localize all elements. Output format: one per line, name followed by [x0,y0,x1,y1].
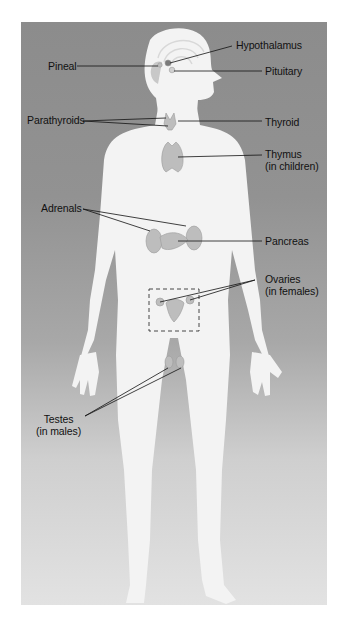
left-kidney-adrenal [146,229,162,253]
label-ovaries-line2: (in females) [265,285,319,297]
label-thymus: Thymus (in children) [265,148,319,172]
label-ovaries-line1: Ovaries [265,273,319,285]
label-pancreas: Pancreas [265,235,309,247]
label-testes-line1: Testes [36,413,81,425]
label-pineal: Pineal [48,60,77,72]
endocrine-diagram [0,0,341,634]
label-testes: Testes (in males) [36,413,81,437]
label-thyroid: Thyroid [265,116,299,128]
label-adrenals: Adrenals [41,202,82,214]
label-testes-line2: (in males) [36,425,81,437]
label-parathyroids: Parathyroids [27,114,85,126]
left-testis [165,356,173,368]
label-thymus-line2: (in children) [265,160,319,172]
label-hypothalamus: Hypothalamus [236,39,302,51]
right-testis [176,356,184,368]
pituitary-gland [169,67,175,73]
right-kidney-adrenal [186,226,202,250]
label-ovaries: Ovaries (in females) [265,273,319,297]
label-thymus-line1: Thymus [265,148,319,160]
pineal-gland [158,63,162,67]
label-pituitary: Pituitary [265,65,302,77]
